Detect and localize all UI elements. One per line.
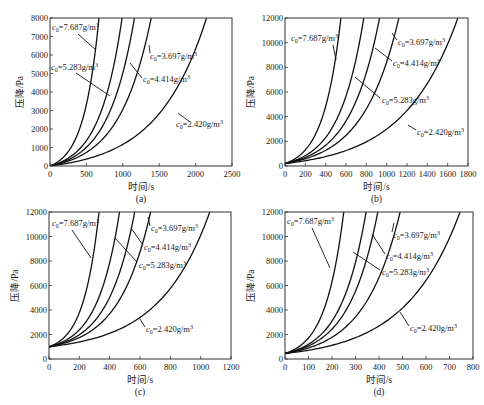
y-tick-label: 7000 [31,32,48,42]
series-label: c0=2.420g/m3 [410,323,457,334]
x-tick-label: 800 [164,362,177,372]
x-axis-label: 时间/s [363,181,390,192]
leader-line [115,238,137,262]
series-label: c0=2.420g/m3 [146,324,193,335]
x-tick-label: 500 [80,169,93,179]
x-axis-label: 时间/s [128,181,155,192]
plot-frame [50,18,232,166]
x-axis-label: 时间/s [366,374,393,385]
y-tick-label: 5000 [31,69,48,79]
curve-line [49,212,135,347]
series-label: c0=7.687g/m3 [52,218,99,229]
series-label: c0=5.283g/m3 [382,95,429,106]
curve-line [50,18,134,166]
x-tick-label: 1400 [419,169,436,179]
x-tick-label: 200 [73,362,86,372]
x-tick-label: 0 [283,362,287,372]
y-tick-label: 6000 [266,281,283,291]
series-label: c0=7.687g/m3 [52,22,99,33]
x-tick-label: 500 [396,362,409,372]
y-tick-label: 4000 [31,87,48,97]
panel-label: (a) [136,194,147,205]
x-tick-label: 2500 [224,169,241,179]
y-tick-label: 0 [279,354,283,364]
y-tick-label: 12000 [262,13,283,23]
chart-panel-c: 0200400600800100012000200040006000800010… [9,207,240,398]
y-tick-label: 10000 [262,38,283,48]
x-tick-label: 800 [360,169,373,179]
y-tick-label: 2000 [31,124,48,134]
x-tick-label: 2000 [187,169,204,179]
x-tick-label: 1200 [223,362,240,372]
x-tick-label: 400 [319,169,332,179]
leader-line [131,228,143,245]
series-label: c0=4.414g/m3 [143,74,190,85]
y-tick-label: 0 [44,161,48,171]
curve-line [285,212,400,353]
y-tick-label: 0 [279,161,283,171]
series-label: c0=2.420g/m3 [417,127,464,138]
x-axis-label: 时间/s [127,374,154,385]
y-tick-label: 12000 [26,207,47,217]
y-tick-label: 1000 [31,143,48,153]
series-label: c0=7.687g/m3 [291,33,338,44]
leader-line [333,45,336,60]
x-tick-label: 1600 [439,169,456,179]
curve-line [50,18,151,166]
y-tick-label: 8000 [31,13,48,23]
chart-panel-b: 0200400600800100012001400160018000200040… [245,13,477,205]
series-label: c0=3.697g/m3 [150,51,197,62]
series-label: c0=7.687g/m3 [287,216,334,227]
leader-line [408,125,416,130]
y-tick-label: 10000 [262,232,283,242]
y-tick-label: 2000 [266,330,283,340]
x-tick-label: 1000 [378,169,395,179]
x-tick-label: 1800 [460,169,477,179]
series-label: c0=5.283g/m3 [139,260,186,271]
x-tick-label: 600 [420,362,433,372]
y-axis-label: 压降/Pa [14,75,25,108]
y-tick-label: 2000 [30,330,47,340]
x-tick-label: 600 [134,362,147,372]
x-tick-label: 100 [302,362,315,372]
y-axis-label: 压降/Pa [245,269,256,302]
panel-label: (d) [373,387,384,398]
leader-line [400,312,409,326]
series-label: c0=3.697g/m3 [393,230,440,241]
series-label: c0=3.697g/m3 [151,223,198,234]
x-tick-label: 1000 [192,362,209,372]
series-label: c0=4.414g/m3 [393,58,440,69]
y-tick-label: 8000 [266,256,283,266]
leader-line [140,319,145,327]
x-tick-label: 600 [340,169,353,179]
y-tick-label: 2000 [266,136,283,146]
panel-label: (b) [371,194,382,205]
y-axis-label: 压降/Pa [9,269,20,302]
curve-line [49,212,151,347]
y-tick-label: 10000 [26,232,47,242]
chart-panel-a: 0500100015002000250001000200030004000500… [14,13,241,205]
x-tick-label: 800 [467,362,480,372]
x-tick-label: 400 [103,362,116,372]
leader-line [78,34,96,50]
curve-line [50,18,99,166]
x-tick-label: 0 [47,362,51,372]
leader-line [372,234,385,254]
leader-line [353,252,380,270]
x-tick-label: 200 [299,169,312,179]
curve-line [285,212,366,353]
leader-line [76,73,110,96]
series-label: c0=4.414g/m3 [144,242,191,253]
x-tick-label: 1500 [151,169,168,179]
y-tick-label: 8000 [266,62,283,72]
curve-line [50,18,122,166]
y-tick-label: 6000 [30,281,47,291]
y-tick-label: 6000 [31,50,48,60]
y-tick-label: 4000 [266,305,283,315]
x-tick-label: 200 [326,362,339,372]
curve-line [49,212,120,347]
series-label: c0=4.414g/m3 [386,251,433,262]
plot-frame [285,212,473,359]
x-tick-label: 300 [349,362,362,372]
leader-line [312,228,330,268]
